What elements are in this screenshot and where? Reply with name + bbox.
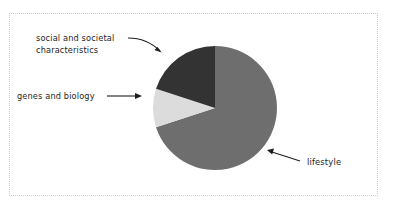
lifestyle-label: lifestyle [307,157,341,167]
lifestyle-arrow-head [267,149,274,155]
pie-chart-svg: social and societal characteristics gene… [0,0,397,209]
genes-biology-label: genes and biology [17,91,95,101]
chart-area: social and societal characteristics gene… [0,0,397,209]
social-societal-label-line1: social and societal [36,33,114,43]
social-societal-arrow-line [128,38,160,51]
genes-biology-arrow-head [135,93,142,99]
pie-chart-screenshot: social and societal characteristics gene… [0,0,397,209]
social-societal-label-line2: characteristics [36,45,98,55]
social-societal-arrow-head [154,47,161,53]
lifestyle-arrow-line [272,152,300,161]
